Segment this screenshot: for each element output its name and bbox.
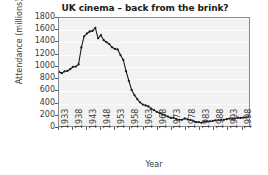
data-point <box>100 34 102 36</box>
y-tick-label: 400 <box>28 99 55 107</box>
data-point <box>69 68 71 70</box>
y-tick-label: 1600 <box>28 25 55 33</box>
x-tick-label: 1998 <box>245 109 253 129</box>
x-tick-mark <box>171 127 172 130</box>
y-tick-mark <box>55 41 58 42</box>
data-point <box>226 118 228 120</box>
x-axis-tick-labels: 1933193819431948195319581963196819731978… <box>58 129 250 159</box>
data-point <box>119 54 121 56</box>
y-tick-mark <box>55 66 58 67</box>
y-tick-mark <box>55 90 58 91</box>
x-tick-label: 1958 <box>132 109 140 129</box>
x-tick-mark <box>100 127 101 130</box>
x-tick-mark <box>213 127 214 130</box>
x-tick-label: 1953 <box>118 109 126 129</box>
y-tick-mark <box>55 54 58 55</box>
y-tick-label: 1200 <box>28 50 55 58</box>
data-point <box>97 37 99 39</box>
data-point <box>63 70 65 72</box>
x-tick-label: 1973 <box>174 109 182 129</box>
data-point <box>184 117 186 119</box>
y-tick-label: 1400 <box>28 37 55 45</box>
data-point <box>122 59 124 61</box>
x-tick-label: 1943 <box>90 109 98 129</box>
x-tick-label: 1933 <box>62 109 70 129</box>
data-point <box>72 66 74 68</box>
data-point <box>147 105 149 107</box>
x-tick-mark <box>143 127 144 130</box>
x-tick-mark <box>72 127 73 130</box>
data-point <box>94 27 96 29</box>
y-tick-mark <box>55 115 58 116</box>
x-tick-label: 1988 <box>217 109 225 129</box>
x-tick-label: 1983 <box>203 109 211 129</box>
y-tick-label: 800 <box>28 74 55 82</box>
x-tick-mark <box>114 127 115 130</box>
y-tick-label: 1800 <box>28 13 55 21</box>
data-point <box>142 103 144 105</box>
x-tick-label: 1963 <box>146 109 154 129</box>
x-tick-label: 1938 <box>76 109 84 129</box>
y-axis-tick-labels: 020040060080010001200140016001800 <box>28 17 55 127</box>
data-point <box>83 35 85 37</box>
y-axis-title: Attendance (millions) <box>15 0 24 94</box>
y-tick-label: 200 <box>28 111 55 119</box>
x-tick-mark <box>199 127 200 130</box>
data-point <box>91 30 93 32</box>
data-point <box>136 98 138 100</box>
y-tick-mark <box>55 17 58 18</box>
data-point <box>133 94 135 96</box>
data-point <box>111 46 113 48</box>
data-point <box>86 32 88 34</box>
data-point <box>105 41 107 43</box>
x-tick-mark <box>185 127 186 130</box>
x-axis-title: Year <box>58 160 250 169</box>
y-tick-label: 1000 <box>28 62 55 70</box>
data-point <box>89 30 91 32</box>
chart-title: UK cinema – back from the brink? <box>40 3 250 13</box>
x-tick-label: 1993 <box>231 109 239 129</box>
data-point <box>103 39 105 41</box>
data-point <box>80 46 82 48</box>
x-tick-mark <box>129 127 130 130</box>
x-tick-label: 1968 <box>160 109 168 129</box>
data-point <box>125 70 127 72</box>
x-tick-mark <box>58 127 59 130</box>
y-tick-label: 600 <box>28 86 55 94</box>
x-tick-mark <box>242 127 243 130</box>
y-tick-mark <box>55 103 58 104</box>
data-point <box>170 117 172 119</box>
x-tick-mark <box>157 127 158 130</box>
data-point <box>114 48 116 50</box>
x-tick-mark <box>227 127 228 130</box>
data-point <box>131 89 133 91</box>
data-point <box>156 111 158 113</box>
data-point <box>144 104 146 106</box>
y-tick-mark <box>55 78 58 79</box>
data-point <box>198 121 200 123</box>
x-tick-mark <box>86 127 87 130</box>
y-tick-mark <box>55 29 58 30</box>
data-point <box>77 63 79 65</box>
data-point <box>66 70 68 72</box>
data-point <box>212 120 214 122</box>
y-tick-label: 0 <box>28 123 55 131</box>
data-point <box>139 101 141 103</box>
data-point <box>75 65 77 67</box>
data-point <box>61 72 63 74</box>
data-point <box>108 43 110 45</box>
x-tick-label: 1948 <box>104 109 112 129</box>
x-tick-label: 1978 <box>189 109 197 129</box>
data-point <box>128 80 130 82</box>
chart-figure: UK cinema – back from the brink? Attenda… <box>0 0 268 175</box>
data-point <box>117 48 119 50</box>
data-point <box>239 117 241 119</box>
